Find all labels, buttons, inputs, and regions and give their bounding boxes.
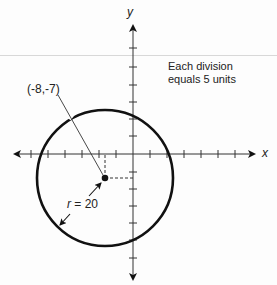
scale-note-line1: Each division	[168, 60, 236, 73]
radius-arrow-to-center	[89, 183, 101, 196]
center-coordinate-label: (-8,-7)	[27, 82, 60, 96]
radius-label: r = 20	[67, 197, 98, 211]
scale-note-line2: equals 5 units	[168, 73, 236, 86]
x-axis-label: x	[262, 146, 268, 160]
y-axis-label: y	[127, 5, 133, 19]
radius-arrow-to-edge	[60, 214, 70, 225]
radius-value: = 20	[71, 197, 98, 211]
center-leader-line	[58, 95, 103, 175]
coordinate-plane	[0, 0, 277, 285]
scale-note: Each division equals 5 units	[168, 60, 236, 86]
center-point	[102, 175, 109, 182]
diagram-canvas: y x Each division equals 5 units (-8,-7)…	[0, 0, 277, 285]
x-axis	[15, 150, 254, 158]
